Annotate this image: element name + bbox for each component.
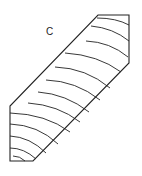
grain-line: [91, 26, 129, 41]
section-outline: [10, 15, 129, 161]
grain-lines: [10, 18, 129, 161]
grain-line: [86, 41, 128, 57]
grain-line: [10, 136, 46, 153]
grain-line: [46, 80, 100, 100]
grain-line: [10, 124, 58, 144]
grain-line: [55, 67, 110, 88]
grain-line: [13, 156, 25, 161]
layered-section-diagram: C: [0, 0, 142, 176]
grain-line: [28, 103, 80, 122]
figure-label: C: [46, 27, 53, 37]
grain-line: [10, 148, 36, 159]
grain-line: [97, 18, 129, 25]
grain-line: [10, 113, 70, 132]
grain-line: [38, 92, 89, 112]
section-drawing: [0, 0, 142, 176]
